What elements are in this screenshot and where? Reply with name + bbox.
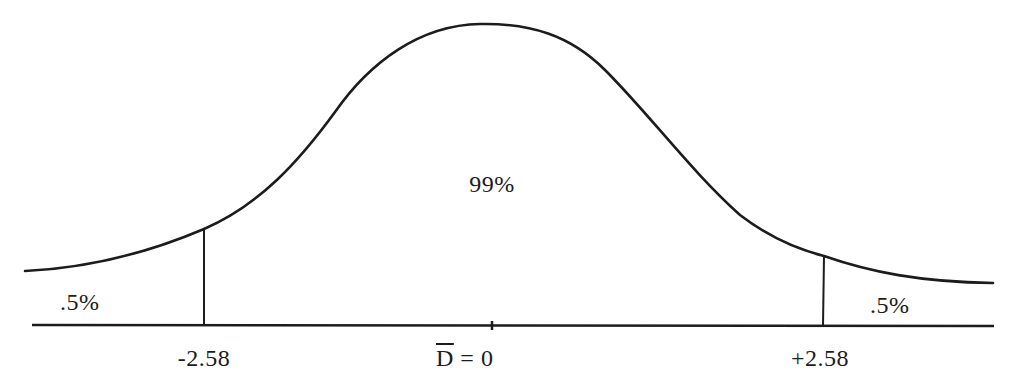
right-critical-value: +2.58 [791,346,849,370]
distribution-plot [0,0,1031,389]
left-tail-label: .5% [60,290,100,314]
left-critical-value: -2.58 [178,346,231,370]
d-bar-symbol: D [436,345,454,371]
right-critical-line [823,256,824,326]
right-tail-label: .5% [870,293,910,317]
bell-curve [25,24,993,283]
mean-value: = 0 [460,345,493,371]
normal-curve-figure: 99% .5% .5% -2.58 D = 0 +2.58 [0,0,1031,389]
mean-label: D = 0 [436,346,493,370]
center-area-label: 99% [469,172,515,196]
baseline-axis [32,325,994,326]
